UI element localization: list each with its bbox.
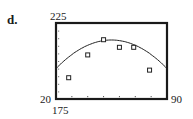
fitted-curve [56, 40, 167, 69]
data-points [67, 38, 152, 80]
plot-area [0, 0, 193, 119]
data-point [86, 53, 90, 57]
plot-frame [56, 23, 167, 99]
data-point [67, 76, 71, 80]
data-point [117, 45, 121, 49]
data-point [132, 45, 136, 49]
data-point [102, 38, 106, 42]
data-point [148, 68, 152, 72]
